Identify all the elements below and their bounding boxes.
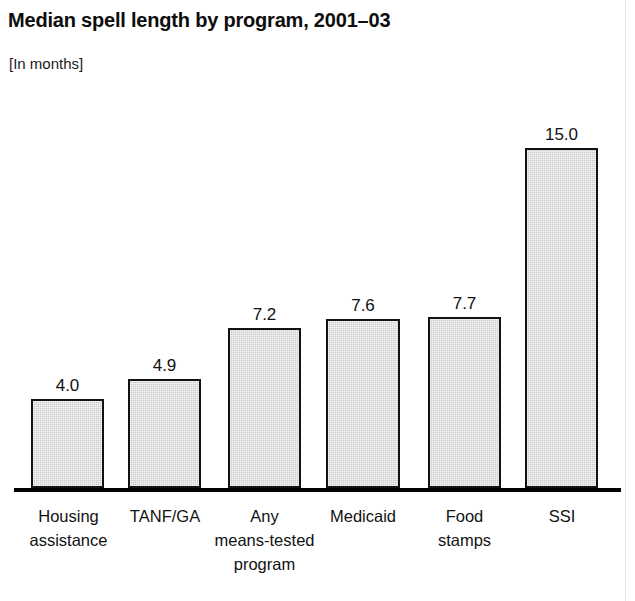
plot-area: 4.0 4.9 7.2 7.6 7.7 15.0 [14, 92, 621, 492]
bar-value-label: 7.6 [304, 296, 422, 316]
x-tick-line: stamps [404, 528, 525, 552]
chart-subtitle-units: [In months] [9, 55, 83, 72]
x-tick-line: means-tested [197, 528, 332, 552]
x-tick-line: assistance [5, 528, 132, 552]
bar-value-label: 7.7 [406, 294, 523, 314]
bar-ssi[interactable] [525, 148, 598, 488]
x-tick-ssi: SSI [501, 504, 623, 528]
bar-value-label: 4.0 [9, 376, 126, 396]
bar-food-stamps[interactable] [428, 317, 501, 488]
bar-tanf-ga[interactable] [128, 379, 201, 488]
x-axis-line [14, 488, 621, 492]
bar-housing-assistance[interactable] [31, 399, 104, 488]
scan-edge-artifact [625, 0, 626, 601]
bar-value-label: 15.0 [503, 125, 620, 145]
bar-any-means-tested-program[interactable] [228, 328, 301, 488]
chart-title: Median spell length by program, 2001–03 [8, 9, 390, 32]
x-tick-line: SSI [501, 504, 623, 528]
bar-medicaid[interactable] [326, 319, 400, 488]
x-axis-tick-labels: Housing assistance TANF/GA Any means-tes… [14, 504, 621, 599]
chart-figure: Median spell length by program, 2001–03 … [0, 0, 635, 601]
x-tick-line: program [197, 552, 332, 576]
bar-value-label: 4.9 [106, 356, 223, 376]
